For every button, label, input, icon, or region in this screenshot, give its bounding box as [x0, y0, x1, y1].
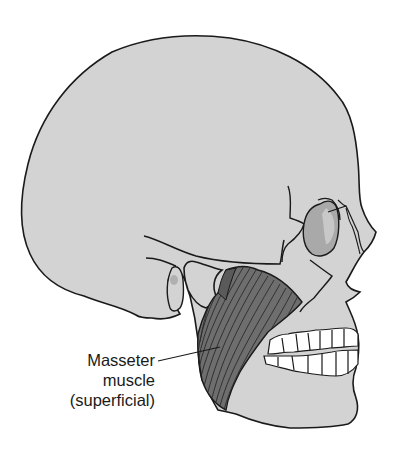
masseter-label-line2: muscle	[5, 370, 155, 390]
masseter-label-line3: (superficial)	[5, 390, 155, 410]
mastoid-shade	[170, 275, 178, 285]
masseter-label: Masseter muscle (superficial)	[5, 350, 155, 410]
mastoid-process	[167, 267, 183, 311]
masseter-label-line1: Masseter	[5, 350, 155, 370]
